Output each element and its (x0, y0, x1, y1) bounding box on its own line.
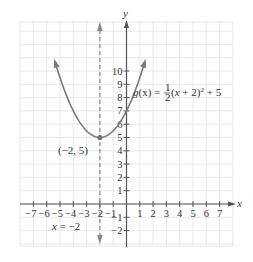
y-tick-label: 7 (117, 105, 122, 116)
chart-canvas: −7−6−5−4−3−2−11234567−2−112345678910 x y… (0, 0, 253, 262)
y-tick-label: 5 (117, 132, 122, 143)
vertex-label: (−2, 5) (58, 144, 88, 157)
y-tick-label: 2 (117, 172, 122, 183)
vertex-point (97, 135, 102, 140)
x-tick-label: 7 (217, 208, 222, 219)
x-tick-label: −6 (39, 208, 50, 219)
x-tick-label: −5 (52, 208, 63, 219)
x-tick-label: −2 (92, 208, 103, 219)
x-tick-label: 5 (190, 208, 195, 219)
y-tick-label: −1 (111, 212, 122, 223)
x-tick-label: 2 (150, 208, 155, 219)
x-tick-label: 4 (177, 208, 183, 219)
x-tick-label: −3 (78, 208, 89, 219)
y-tick-label: 3 (117, 159, 122, 170)
y-tick-label: 10 (112, 66, 123, 77)
x-axis-label: x (236, 197, 242, 209)
x-tick-label: 3 (164, 208, 169, 219)
x-tick-label: 1 (137, 208, 142, 219)
function-label: g(x) = (133, 86, 160, 99)
y-axis-label: y (122, 7, 128, 19)
y-tick-label: 4 (117, 145, 123, 156)
x-tick-label: −4 (65, 208, 77, 219)
axis-of-symmetry-label: x = −2 (51, 220, 80, 232)
y-tick-label: 8 (117, 92, 122, 103)
x-tick-label: −7 (25, 208, 36, 219)
y-tick-label: 1 (117, 185, 122, 196)
y-tick-label: 9 (117, 79, 122, 90)
y-tick-label: −2 (111, 225, 122, 236)
x-tick-label: 6 (204, 208, 209, 219)
fraction-one-half: 1 2 (164, 81, 171, 103)
svg-text:2: 2 (165, 91, 171, 103)
function-label-rest: (x + 2)2 + 5 (171, 86, 222, 99)
